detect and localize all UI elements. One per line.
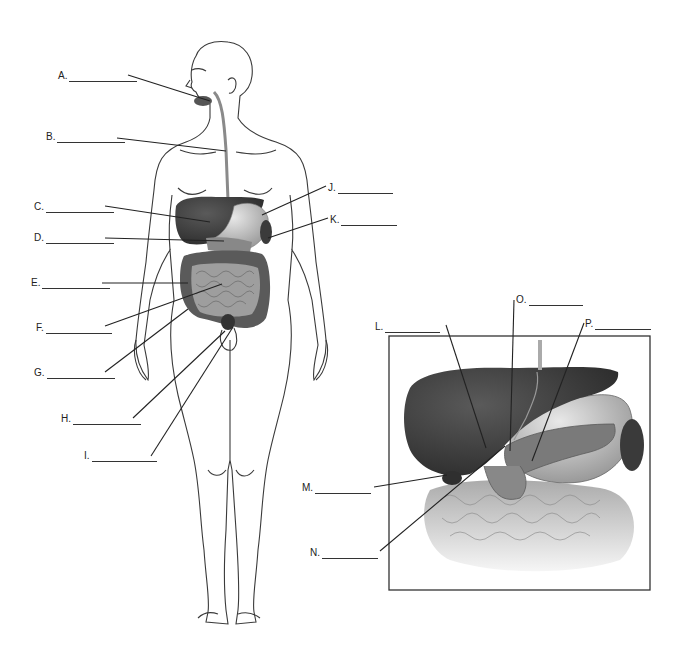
label-j: J. xyxy=(328,182,393,194)
label-letter: F. xyxy=(36,322,44,334)
answer-blank[interactable] xyxy=(385,323,440,333)
esophagus xyxy=(214,92,228,200)
label-letter: I. xyxy=(84,450,90,462)
answer-blank[interactable] xyxy=(529,296,583,306)
label-c: C. xyxy=(34,201,114,213)
label-k: K. xyxy=(330,214,397,226)
answer-blank[interactable] xyxy=(46,324,112,334)
label-n: N. xyxy=(310,547,378,559)
answer-blank[interactable] xyxy=(57,133,125,143)
label-e: E. xyxy=(31,277,110,289)
answer-blank[interactable] xyxy=(595,320,651,330)
label-letter: A. xyxy=(58,70,67,82)
label-p: P. xyxy=(585,318,651,330)
label-letter: L. xyxy=(375,321,383,333)
leader-line-j xyxy=(262,186,326,215)
answer-blank[interactable] xyxy=(322,549,378,559)
answer-blank[interactable] xyxy=(341,216,397,226)
answer-blank[interactable] xyxy=(73,415,141,425)
answer-blank[interactable] xyxy=(46,234,114,244)
answer-blank[interactable] xyxy=(315,484,371,494)
label-a: A. xyxy=(58,70,137,82)
inset-intestines xyxy=(424,480,634,571)
label-g: G. xyxy=(34,367,115,379)
label-letter: J. xyxy=(328,182,336,194)
label-h: H. xyxy=(61,413,141,425)
label-letter: C. xyxy=(34,201,44,213)
label-o: O. xyxy=(516,294,583,306)
answer-blank[interactable] xyxy=(92,452,157,462)
leader-line-g xyxy=(105,309,188,372)
leader-line-k xyxy=(268,218,328,238)
leader-line-i xyxy=(151,327,233,456)
label-letter: H. xyxy=(61,413,71,425)
answer-blank[interactable] xyxy=(47,369,115,379)
inset-gallbladder xyxy=(442,471,462,485)
label-b: B. xyxy=(46,131,125,143)
label-d: D. xyxy=(34,232,114,244)
digestive-system-diagram: A.B.C.D.E.F.G.H.I.J.K.L.M.N.O.P. xyxy=(0,0,684,658)
label-letter: M. xyxy=(302,482,313,494)
label-m: M. xyxy=(302,482,371,494)
answer-blank[interactable] xyxy=(46,203,114,213)
body-outline xyxy=(134,42,327,624)
leader-line-h xyxy=(133,331,225,418)
label-l: L. xyxy=(375,321,440,333)
label-letter: E. xyxy=(31,277,40,289)
answer-blank[interactable] xyxy=(69,72,137,82)
inset-spleen xyxy=(620,419,644,471)
label-f: F. xyxy=(36,322,112,334)
answer-blank[interactable] xyxy=(42,279,110,289)
label-letter: K. xyxy=(330,214,339,226)
label-letter: D. xyxy=(34,232,44,244)
label-letter: O. xyxy=(516,294,527,306)
label-i: I. xyxy=(84,450,157,462)
answer-blank[interactable] xyxy=(338,184,393,194)
label-letter: N. xyxy=(310,547,320,559)
label-letter: G. xyxy=(34,367,45,379)
leader-line-a xyxy=(128,75,210,101)
spleen xyxy=(260,220,272,244)
inset-artwork xyxy=(404,340,644,571)
label-letter: P. xyxy=(585,318,593,330)
label-letter: B. xyxy=(46,131,55,143)
